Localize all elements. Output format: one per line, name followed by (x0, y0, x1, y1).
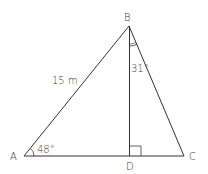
label-a: A (10, 151, 17, 162)
angle-dbc-value: 31° (131, 63, 149, 74)
angle-arc-b (130, 44, 137, 46)
side-ab (24, 26, 129, 156)
side-bc (129, 26, 184, 156)
angle-arc-b-inner (130, 43, 137, 44)
label-c: C (189, 151, 196, 162)
angle-a-value: 48° (37, 144, 55, 155)
right-angle-mark (130, 146, 141, 156)
diagram-svg: B A D C 15 m 31° 48° (0, 0, 208, 174)
side-ab-length: 15 m (52, 75, 78, 86)
triangle-diagram: B A D C 15 m 31° 48° (0, 0, 208, 174)
label-b: B (124, 12, 131, 23)
label-d: D (126, 161, 134, 172)
angle-arc-a (30, 148, 34, 156)
